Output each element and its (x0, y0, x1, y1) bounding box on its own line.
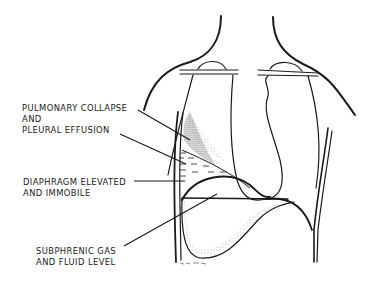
label-diaphragm-line2: AND IMMOBILE (23, 188, 126, 199)
label-subphrenic-line2: AND FLUID LEVEL (36, 257, 116, 268)
label-diaphragm-line1: DIAPHRAGM ELEVATED (23, 177, 126, 188)
leader-subphrenic (124, 194, 217, 246)
chest-diagram (0, 0, 379, 287)
label-subphrenic: SUBPHRENIC GAS AND FLUID LEVEL (36, 246, 116, 268)
right-lung-outline (308, 76, 319, 188)
label-pulmonary-line2: AND (22, 114, 127, 125)
elevated-diaphragm (182, 177, 270, 200)
fluid-level-line (182, 198, 288, 199)
heart-outline (266, 76, 283, 199)
mediastinum-left-border (231, 75, 266, 200)
label-subphrenic-line1: SUBPHRENIC GAS (36, 246, 116, 257)
left-neck-shoulder-outline (144, 16, 221, 110)
left-shoulder-cap (198, 61, 226, 69)
label-pulmonary-line1: PULMONARY COLLAPSE (22, 103, 127, 114)
subphrenic-stipple (184, 200, 292, 255)
right-chest-wall (314, 128, 328, 262)
right-clavicle (258, 70, 318, 76)
label-pulmonary-collapse: PULMONARY COLLAPSE AND PLEURAL EFFUSION (22, 103, 127, 136)
label-pulmonary-line3: PLEURAL EFFUSION (22, 125, 127, 136)
right-shoulder-cap (270, 62, 302, 71)
subphrenic-cavity-outline (182, 198, 294, 258)
label-diaphragm: DIAPHRAGM ELEVATED AND IMMOBILE (23, 177, 126, 199)
artist-signature (180, 263, 206, 264)
left-clavicle (180, 70, 238, 74)
